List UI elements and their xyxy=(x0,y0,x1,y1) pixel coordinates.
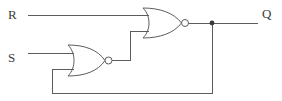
input-label-s: S xyxy=(8,51,15,64)
input-label-r: R xyxy=(8,8,17,21)
wire-bottom-nor-output-to-top-nor-input xyxy=(112,31,147,61)
circuit-schematic-canvas xyxy=(0,0,282,101)
nor-gate-top-body xyxy=(143,8,182,38)
nor-gate-bottom-body xyxy=(68,45,105,76)
nor-gate-bottom xyxy=(68,45,112,76)
nor-gate-top xyxy=(143,8,189,38)
q-junction-dot xyxy=(210,21,215,26)
wire-q-feedback-to-bottom-nor xyxy=(52,23,212,93)
output-label-q: Q xyxy=(262,7,271,20)
logic-circuit-diagram: R S Q xyxy=(0,0,282,101)
nor-gate-bottom-inversion-bubble xyxy=(105,57,112,64)
nor-gate-top-inversion-bubble xyxy=(182,20,189,27)
